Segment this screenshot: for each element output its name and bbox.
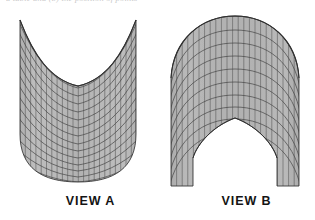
view-label-b: VIEW B xyxy=(168,194,315,208)
figure-area xyxy=(0,0,315,220)
view-label-a: VIEW A xyxy=(12,194,169,208)
saddle-surface-view-a xyxy=(0,8,157,188)
surface-body-view-a xyxy=(0,8,157,188)
saddle-surface-view-b xyxy=(157,8,314,188)
surface-panel-view-b xyxy=(157,8,314,188)
surface-body-view-b xyxy=(157,8,314,188)
surface-panel-view-a xyxy=(0,8,157,188)
